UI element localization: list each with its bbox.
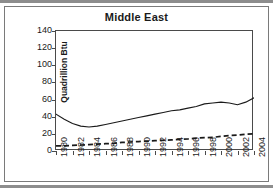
x-axis-tick-label: 1986 <box>110 137 119 157</box>
top-rule-divider <box>0 0 273 3</box>
x-axis-tick-mark <box>254 151 255 155</box>
x-axis-tick-label: 1984 <box>93 137 102 157</box>
x-axis-tick-label: 2000 <box>225 137 234 157</box>
x-axis-tick-label: 1982 <box>77 137 86 157</box>
chart-figure: Middle East Quadrillion Btu 140120100806… <box>0 0 273 192</box>
y-axis-tick-mark <box>52 134 56 135</box>
x-axis-tick-label: 1992 <box>159 137 168 157</box>
x-axis-tick-mark <box>172 151 173 155</box>
x-axis-tick-mark <box>139 151 140 155</box>
x-axis-tick-label: 2004 <box>258 137 267 157</box>
y-axis-tick-mark <box>52 117 56 118</box>
x-axis-tick-mark <box>89 151 90 155</box>
y-axis-tick-mark <box>52 48 56 49</box>
chart-title: Middle East <box>0 11 273 23</box>
x-axis-tick-mark <box>73 151 74 155</box>
y-axis-tick-label: 40 <box>20 112 52 121</box>
x-axis-tick-label: 1996 <box>192 137 201 157</box>
y-axis-tick-label: 60 <box>20 95 52 104</box>
y-axis-tick-mark <box>52 100 56 101</box>
x-axis-tick-mark <box>205 151 206 155</box>
plot-area: Quadrillion Btu 140120100806040200198019… <box>55 30 253 150</box>
x-axis-tick-label: 1980 <box>60 137 69 157</box>
plot-lines <box>56 31 254 151</box>
y-axis-tick-label: 120 <box>20 43 52 52</box>
x-axis-tick-mark <box>106 151 107 155</box>
y-axis-tick-label: 0 <box>20 146 52 155</box>
x-axis-tick-label: 2002 <box>242 137 251 157</box>
x-axis-tick-label: 1994 <box>176 137 185 157</box>
x-axis-tick-mark <box>238 151 239 155</box>
x-axis-tick-mark <box>188 151 189 155</box>
y-axis-tick-label: 140 <box>20 26 52 35</box>
x-axis-tick-mark <box>122 151 123 155</box>
y-axis-tick-label: 100 <box>20 60 52 69</box>
x-axis-tick-label: 1988 <box>126 137 135 157</box>
bottom-rule-divider <box>0 185 273 188</box>
y-axis-tick-mark <box>52 82 56 83</box>
x-axis-tick-mark <box>56 151 57 155</box>
x-axis-tick-label: 1998 <box>209 137 218 157</box>
y-axis-tick-mark <box>52 65 56 66</box>
x-axis-tick-label: 1990 <box>143 137 152 157</box>
x-axis-tick-mark <box>221 151 222 155</box>
series-line-solid <box>56 98 254 127</box>
y-axis-tick-mark <box>52 31 56 32</box>
y-axis-tick-label: 80 <box>20 77 52 86</box>
x-axis-tick-mark <box>155 151 156 155</box>
y-axis-tick-label: 20 <box>20 129 52 138</box>
